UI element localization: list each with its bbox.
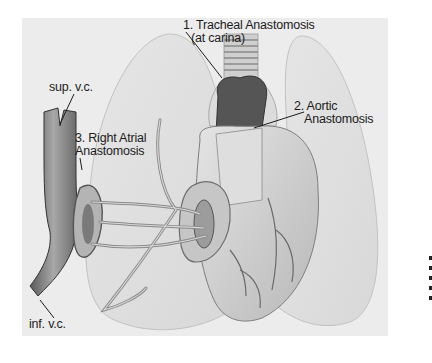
label-aortic-anastomosis: 2. Aortic Anastomosis [294, 100, 373, 126]
label-tracheal-anastomosis: 1. Tracheal Anastomosis (at carina) [183, 19, 315, 45]
leader-inf-vc [40, 300, 54, 318]
superior-vena-cava [30, 108, 77, 296]
label-inf-vc: inf. v.c. [29, 318, 66, 331]
aortic-arch [216, 76, 267, 134]
leader-right-atrial [80, 158, 82, 170]
label-right-atrial-anastomosis: 3. Right Atrial Anastomosis [75, 132, 146, 158]
label-sup-vc: sup. v.c. [49, 81, 93, 94]
heart-lung-illustration [0, 0, 432, 363]
